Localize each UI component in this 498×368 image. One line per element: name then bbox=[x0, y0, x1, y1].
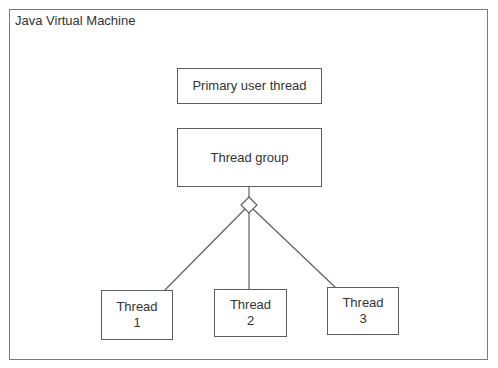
thread-2-label-line1: Thread bbox=[230, 297, 271, 313]
thread-2-node: Thread 2 bbox=[214, 289, 287, 337]
jvm-container-title: Java Virtual Machine bbox=[15, 13, 135, 28]
thread-3-node: Thread 3 bbox=[327, 287, 399, 335]
thread-3-label-line1: Thread bbox=[342, 295, 383, 311]
primary-user-thread-label: Primary user thread bbox=[192, 78, 306, 94]
thread-3-label-line2: 3 bbox=[359, 311, 366, 327]
primary-user-thread-node: Primary user thread bbox=[177, 68, 322, 104]
thread-2-label-line2: 2 bbox=[247, 313, 254, 329]
thread-1-label-line2: 1 bbox=[133, 315, 140, 331]
thread-1-node: Thread 1 bbox=[101, 290, 173, 340]
thread-1-label-line1: Thread bbox=[116, 299, 157, 315]
thread-group-label: Thread group bbox=[210, 150, 288, 166]
thread-group-node: Thread group bbox=[177, 128, 322, 187]
